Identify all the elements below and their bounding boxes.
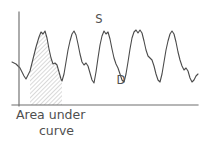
diastolic-trough-label: D [117, 73, 126, 87]
caption-block: Area under curve [0, 107, 205, 139]
systolic-peak-label: S [95, 12, 102, 26]
figure-container: S D Area under curve [0, 0, 205, 142]
caption-line-two: curve [0, 123, 205, 139]
caption-line-one: Area under [0, 107, 205, 123]
area-under-curve-shading [30, 31, 62, 105]
